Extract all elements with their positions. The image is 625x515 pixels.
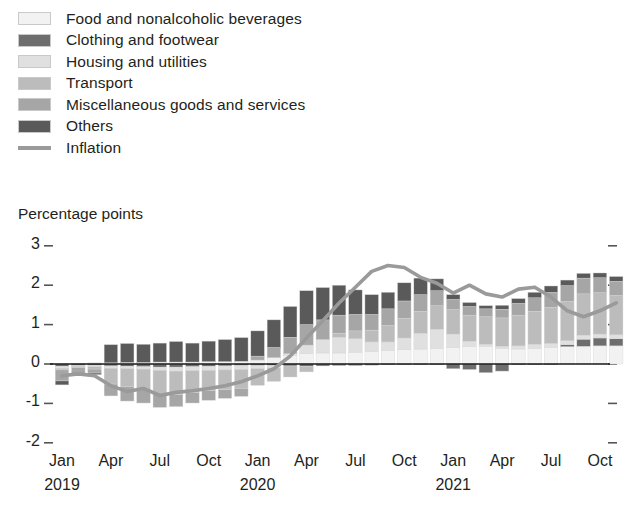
bar-segment [446,310,460,334]
bar-segment [137,367,151,369]
bar-segment [202,391,216,400]
bar-segment [88,365,102,367]
bar-segment [593,346,607,364]
bar-segment [528,292,542,298]
bar-segment [430,291,444,306]
bar-segment [577,335,591,339]
bar-segment [104,345,118,363]
x-year-label: 2021 [435,476,471,494]
bar-segment [577,346,591,364]
bar-segment [186,393,200,403]
bar-segment [495,305,509,309]
x-tick-label: Oct [196,452,221,470]
bar-segment [544,347,558,364]
bar-segment [479,344,493,346]
bar-segment [316,353,330,364]
chart-plot-area: 3210-1-2JanAprJulOctJanAprJulOctJanAprJu… [0,0,625,515]
bar-segment [120,369,134,387]
bar-segment [495,318,509,346]
bar-segment [218,366,232,370]
bar-segment [381,342,395,351]
bar-segment [561,345,575,347]
bar-segment [300,291,314,325]
bar-segment [169,342,183,362]
bar-segment [593,278,607,293]
bar-segment [365,314,379,330]
bar-segment [544,286,558,292]
bar-segment [479,346,493,364]
bar-segment [463,341,477,347]
bar-segment [561,347,575,364]
bar-segment [544,307,558,343]
bar-segment [202,366,216,370]
x-tick-label: Jan [49,452,75,470]
bar-segment [88,369,102,373]
bar-segment [414,333,428,349]
bar-segment [398,318,412,338]
bar-segment [365,295,379,315]
bar-segment [479,317,493,345]
bar-segment [283,306,297,337]
bar-segment [381,325,395,342]
x-tick-label: Apr [490,452,515,470]
x-tick-label: Jan [440,452,466,470]
bar-segment [463,315,477,341]
bar-segment [512,303,526,315]
bar-segment [381,351,395,364]
bar-segment [528,344,542,348]
bar-segment [104,366,118,368]
bar-segment [528,348,542,364]
bar-segment [349,331,363,339]
bar-segment [332,333,346,337]
bar-segment [218,390,232,399]
bar-segment [72,368,86,373]
bar-segment [267,347,281,357]
bar-segment [365,330,379,342]
bar-segment [479,309,493,317]
bar-segment [332,315,346,333]
bar-segment [88,367,102,369]
bar-segment [577,278,591,294]
bar-segment [561,286,575,302]
y-tick-label--1: -1 [6,392,40,410]
bar-segment [186,367,200,371]
x-tick-label: Oct [587,452,612,470]
bar-segment [235,388,249,396]
y-tick-label-2: 2 [6,274,40,292]
bar-segment [495,309,509,318]
bar-segment [609,339,623,346]
x-tick-label: Jul [150,452,170,470]
bar-segment [446,334,460,347]
bar-segment [446,299,460,309]
bar-segment [398,283,412,301]
bar-segment [528,298,542,311]
bar-segment [349,352,363,364]
bar-segment [463,303,477,307]
bar-segment [593,338,607,346]
bar-segment [609,281,623,295]
bar-segment [512,349,526,364]
y-tick-label-0: 0 [6,353,40,371]
bar-segment [430,348,444,364]
bar-segment [251,366,265,369]
bar-segment [593,334,607,338]
bar-segment [251,331,265,356]
bar-segment [316,340,330,353]
bar-segment [300,354,314,364]
bar-segment [398,338,412,350]
bar-segment [463,306,477,315]
bar-segment [414,295,428,312]
bar-segment [512,299,526,304]
bar-segment [55,366,69,368]
bar-segment [153,367,167,370]
bar-segment [235,338,249,362]
bar-segment [528,311,542,344]
bar-segment [609,277,623,282]
x-tick-label: Jul [345,452,365,470]
stacked-bar-chart-svg [0,0,625,515]
bar-segment [169,367,183,371]
x-tick-label: Oct [392,452,417,470]
bar-segment [235,366,249,370]
bar-segment [479,306,493,309]
bar-segment [251,356,265,360]
